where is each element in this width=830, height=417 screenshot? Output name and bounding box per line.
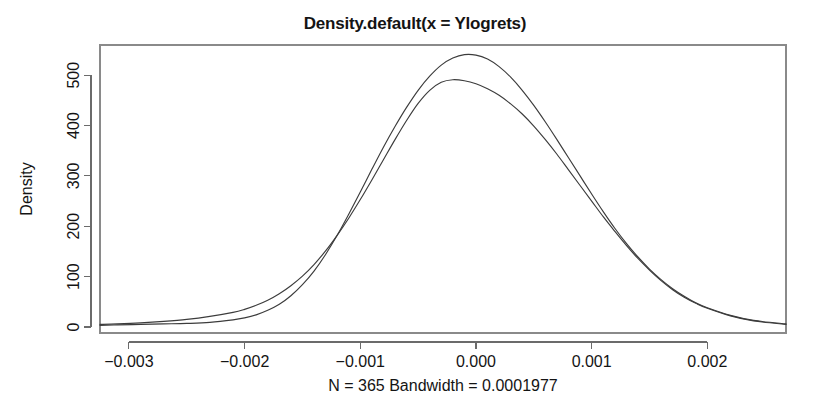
y-tick-label: 100 [66, 263, 83, 290]
x-tick-label: 0.002 [687, 353, 727, 370]
y-tick-label: 400 [66, 112, 83, 139]
density-curve-line [100, 80, 786, 325]
x-tick-label: −0.002 [220, 353, 269, 370]
y-tick-label: 0 [66, 322, 83, 331]
x-tick-label: −0.001 [336, 353, 385, 370]
y-tick-label: 300 [66, 162, 83, 189]
x-tick-label: 0.000 [456, 353, 496, 370]
plot-canvas: −0.003−0.002−0.0010.0000.0010.002 010020… [0, 0, 830, 417]
y-tick-label: 500 [66, 62, 83, 89]
density-plot-figure: Density.default(x = Ylogrets) −0.003−0.0… [0, 0, 830, 417]
x-axis-caption: N = 365 Bandwidth = 0.0001977 [328, 377, 558, 394]
density-curves [100, 54, 786, 325]
x-tick-label: 0.001 [572, 353, 612, 370]
y-axis: 0100200300400500 [66, 62, 92, 332]
density-curve-line [100, 54, 786, 325]
x-tick-label: −0.003 [104, 353, 153, 370]
y-axis-title: Density [18, 162, 35, 215]
x-axis: −0.003−0.002−0.0010.0000.0010.002 [104, 342, 727, 370]
plot-frame [100, 45, 786, 333]
plot-box [100, 45, 786, 333]
y-tick-label: 200 [66, 213, 83, 240]
